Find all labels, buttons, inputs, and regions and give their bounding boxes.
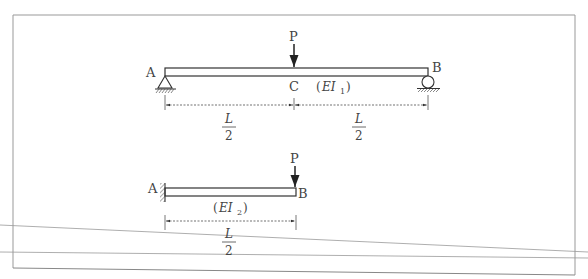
svg-text:): ) [243, 201, 248, 215]
beam-2-body [165, 188, 296, 196]
pin-support-icon [155, 76, 176, 93]
beam-1: P A B C ( EI 1 ) L 2 L 2 [145, 29, 442, 143]
stiffness-label-1: ( EI 1 ) [316, 80, 351, 96]
svg-text:2: 2 [237, 208, 242, 217]
svg-text:2: 2 [225, 129, 233, 143]
svg-text:L: L [224, 227, 233, 241]
svg-text:): ) [346, 80, 351, 94]
beam-1-body [165, 68, 428, 76]
load-label: P [289, 29, 298, 44]
svg-text:L: L [354, 112, 363, 126]
dimension-label-cantilever: L 2 [222, 227, 236, 258]
beam-diagram: P A B C ( EI 1 ) L 2 L 2 [0, 0, 588, 279]
point-b-label: B [298, 186, 308, 201]
svg-text:1: 1 [340, 87, 345, 96]
dimension-label-right: L 2 [352, 112, 366, 143]
svg-text:EI: EI [321, 80, 336, 94]
scan-artifact-line [0, 252, 588, 258]
svg-text:L: L [224, 112, 233, 126]
svg-text:2: 2 [355, 129, 363, 143]
load-label: P [290, 151, 299, 166]
point-a-label: A [147, 181, 158, 196]
point-b-label: B [432, 60, 442, 75]
stiffness-label-2: ( EI 2 ) [213, 201, 248, 217]
svg-text:(: ( [316, 80, 321, 94]
fixed-support-icon [160, 183, 165, 202]
scan-artifact-line [0, 225, 588, 252]
point-a-label: A [145, 65, 156, 80]
beam-2: P A B ( EI 2 ) L 2 [147, 151, 308, 258]
dimension-lines-1 [165, 95, 428, 110]
dimension-label-left: L 2 [222, 112, 236, 143]
point-c-label: C [289, 79, 299, 94]
svg-text:2: 2 [225, 244, 233, 258]
svg-text:(: ( [213, 201, 218, 215]
svg-text:EI: EI [218, 201, 233, 215]
roller-support-icon [417, 76, 440, 92]
